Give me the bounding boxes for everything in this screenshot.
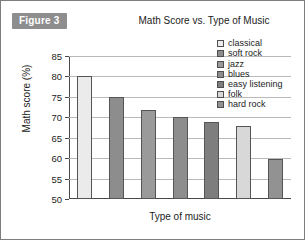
legend-label: soft rock — [228, 49, 262, 58]
bar-blues — [173, 117, 188, 199]
legend-item-hard-rock: hard rock — [217, 100, 283, 110]
legend-swatch-icon — [217, 50, 224, 57]
legend-swatch-icon — [217, 91, 224, 98]
legend-swatch-icon — [217, 71, 224, 78]
legend-item-jazz: jazz — [217, 59, 283, 69]
legend-label: jazz — [228, 60, 244, 69]
legend-swatch-icon — [217, 40, 224, 47]
y-tick-label: 70 — [51, 113, 62, 122]
y-axis-title: Math score (%) — [21, 44, 32, 154]
legend-item-classical: classical — [217, 39, 283, 49]
legend-label: blues — [228, 70, 250, 79]
figure-number-badge: Figure 3 — [12, 13, 67, 29]
y-tick-label: 85 — [51, 52, 62, 61]
y-tick-label: 65 — [51, 134, 62, 143]
bar-classical — [77, 76, 92, 199]
chart-title: Math Score vs. Type of Music — [109, 15, 299, 27]
legend-swatch-icon — [217, 61, 224, 68]
y-tick-mark — [65, 199, 69, 200]
x-axis-title: Type of music — [69, 211, 291, 222]
bar-jazz — [141, 110, 156, 199]
y-tick-label: 50 — [51, 195, 62, 204]
y-tick-label: 80 — [51, 72, 62, 81]
y-tick-label: 60 — [51, 154, 62, 163]
legend-item-easy-listening: easy listening — [217, 80, 283, 90]
legend-item-folk: folk — [217, 90, 283, 100]
legend-item-soft-rock: soft rock — [217, 49, 283, 59]
legend-item-blues: blues — [217, 70, 283, 80]
bar-easy-listening — [204, 122, 219, 199]
legend: classicalsoft rockjazzblueseasy listenin… — [217, 39, 283, 110]
legend-swatch-icon — [217, 81, 224, 88]
y-tick-label: 55 — [51, 175, 62, 184]
bar-soft-rock — [109, 97, 124, 199]
legend-swatch-icon — [217, 101, 224, 108]
legend-label: hard rock — [228, 100, 266, 109]
legend-label: folk — [228, 90, 242, 99]
legend-label: easy listening — [228, 80, 283, 89]
legend-label: classical — [228, 39, 262, 48]
y-tick-label: 75 — [51, 93, 62, 102]
bar-hard-rock — [268, 159, 283, 199]
bar-folk — [236, 126, 251, 199]
figure-frame: Figure 3 Math Score vs. Type of Music 85… — [0, 0, 305, 240]
